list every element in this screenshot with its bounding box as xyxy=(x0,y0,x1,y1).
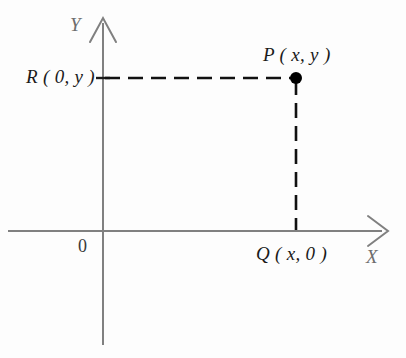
coordinate-diagram: R ( 0, y ) P ( x, y ) Q ( x, 0 ) X Y 0 xyxy=(0,0,406,358)
diagram-canvas xyxy=(0,0,406,358)
point-label-r: R ( 0, y ) xyxy=(26,66,95,88)
point-label-q: Q ( x, 0 ) xyxy=(256,243,327,265)
x-axis-label: X xyxy=(366,246,378,268)
point-marker-p xyxy=(290,72,302,84)
origin-label: 0 xyxy=(78,236,87,257)
y-axis-label: Y xyxy=(70,14,81,36)
point-label-p: P ( x, y ) xyxy=(263,44,331,66)
